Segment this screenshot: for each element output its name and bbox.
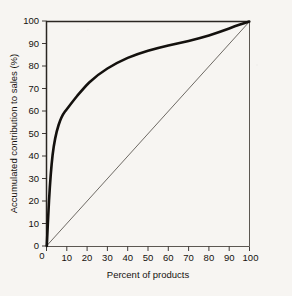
y-tick-label-20: 20 (28, 195, 39, 206)
y-tick-label-90: 90 (28, 38, 39, 49)
pareto-chart-figure: 0 10 20 30 40 50 60 70 80 90 100 0 10 20… (0, 0, 292, 296)
x-tick-label-80: 80 (204, 252, 215, 263)
data-series-group (47, 22, 250, 247)
x-tick-label-60: 60 (163, 252, 174, 263)
x-tick-label-100: 100 (243, 252, 259, 263)
y-tick-label-10: 10 (28, 218, 39, 229)
x-tick-label-20: 20 (82, 252, 93, 263)
y-tick-label-50: 50 (28, 128, 39, 139)
x-axis-title: Percent of products (107, 269, 190, 280)
x-axis-ticks (47, 247, 250, 252)
y-tick-label-70: 70 (28, 83, 39, 94)
y-tick-label-100: 100 (23, 15, 39, 26)
x-tick-label-40: 40 (122, 252, 133, 263)
y-axis-title: Accumulated contribution to sales (%) (8, 54, 19, 213)
x-tick-label-30: 30 (102, 252, 113, 263)
x-axis-tick-labels: 0 10 20 30 40 50 60 70 80 90 100 (39, 250, 258, 263)
x-tick-label-50: 50 (143, 252, 154, 263)
x-tick-label-90: 90 (224, 252, 235, 263)
x-tick-label-0: 0 (39, 250, 44, 261)
y-tick-label-60: 60 (28, 105, 39, 116)
y-tick-label-0: 0 (34, 240, 39, 251)
y-tick-label-80: 80 (28, 60, 39, 71)
equal-distribution-reference-line (47, 22, 250, 247)
x-tick-label-10: 10 (62, 252, 73, 263)
y-axis-tick-labels: 0 10 20 30 40 50 60 70 80 90 100 (23, 15, 39, 251)
x-tick-label-70: 70 (183, 252, 194, 263)
y-tick-label-30: 30 (28, 173, 39, 184)
y-tick-label-40: 40 (28, 150, 39, 161)
